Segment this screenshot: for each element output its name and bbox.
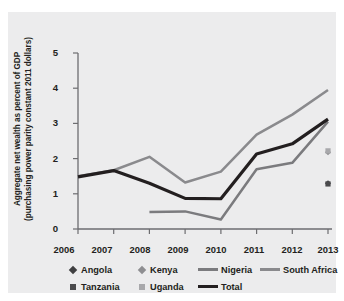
y-tick-label-4: 4	[42, 82, 58, 93]
legend-label-total: Total	[221, 282, 242, 292]
chart-figure: Aggregate net wealth as percent of GDP (…	[0, 0, 344, 301]
data-point-marker	[325, 148, 330, 153]
x-tick-label-2013: 2013	[308, 244, 344, 255]
y-tick-label-0: 0	[42, 223, 58, 234]
plot-area	[64, 41, 332, 241]
series-total	[78, 119, 328, 199]
nigeria-line-icon	[198, 268, 218, 271]
legend-item-uganda[interactable]: Uganda	[139, 279, 184, 294]
legend-label-tanzania: Tanzania	[81, 282, 120, 292]
x-tick-label-2006: 2006	[44, 244, 84, 255]
legend-item-nigeria[interactable]: Nigeria	[198, 262, 252, 277]
y-axis-title-line2: (purchasing power parity constant 2011 d…	[24, 29, 35, 229]
legend-item-total[interactable]: Total	[198, 279, 242, 294]
uganda-square-icon	[139, 284, 145, 290]
legend-label-nigeria: Nigeria	[221, 265, 252, 275]
legend-item-tanzania[interactable]: Tanzania	[70, 279, 120, 294]
series-south-africa	[78, 90, 328, 183]
legend-row-2: Tanzania Uganda Total	[64, 279, 344, 294]
legend-item-south-africa[interactable]: South Africa	[260, 262, 337, 277]
legend-label-south-africa: South Africa	[283, 265, 337, 275]
south-africa-line-icon	[260, 268, 280, 271]
legend-label-angola: Angola	[81, 265, 112, 275]
x-tick-label-2012: 2012	[272, 244, 312, 255]
series-uganda	[325, 148, 330, 153]
y-tick-label-2: 2	[42, 153, 58, 164]
y-tick-label-5: 5	[42, 47, 58, 58]
data-point-marker	[325, 181, 330, 186]
x-tick-label-2010: 2010	[196, 244, 236, 255]
angola-diamond-icon	[69, 265, 77, 273]
plot-svg	[64, 41, 332, 241]
x-tick-label-2007: 2007	[82, 244, 122, 255]
y-tick-label-1: 1	[42, 188, 58, 199]
x-axis-ticks	[78, 229, 328, 234]
legend-item-angola[interactable]: Angola	[70, 262, 112, 277]
series-line	[78, 119, 328, 199]
legend-item-kenya[interactable]: Kenya	[139, 262, 178, 277]
series-line	[78, 90, 328, 183]
legend-label-kenya: Kenya	[150, 265, 178, 275]
y-axis-title-line1: Aggregate net wealth as percent of GDP	[13, 29, 24, 229]
kenya-diamond-icon	[138, 265, 146, 273]
tanzania-square-icon	[70, 284, 76, 290]
y-tick-label-3: 3	[42, 117, 58, 128]
x-tick-label-2011: 2011	[234, 244, 274, 255]
legend-label-uganda: Uganda	[150, 282, 184, 292]
series-tanzania	[325, 181, 330, 186]
data-series-layer	[78, 90, 331, 220]
y-axis-ticks	[73, 53, 78, 229]
legend-row-1: Angola Kenya Nigeria South Africa	[64, 262, 344, 277]
x-tick-label-2009: 2009	[158, 244, 198, 255]
chart-legend: Angola Kenya Nigeria South Africa	[64, 262, 344, 296]
total-line-icon	[198, 285, 218, 288]
chart-panel: Aggregate net wealth as percent of GDP (…	[8, 12, 336, 293]
y-axis-title: Aggregate net wealth as percent of GDP (…	[13, 29, 47, 229]
x-tick-label-2008: 2008	[120, 244, 160, 255]
